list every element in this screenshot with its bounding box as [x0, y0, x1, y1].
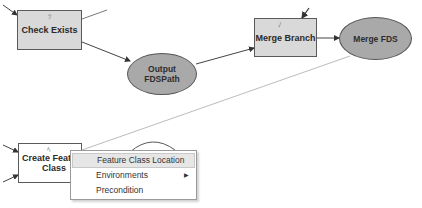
- connector-output-to-merge-branch: [196, 48, 254, 64]
- node-label: Merge Branch: [255, 33, 315, 43]
- node-merge-fds[interactable]: Merge FDS: [339, 17, 412, 60]
- tool-icon: ﾉ: [278, 20, 281, 30]
- connector-into-create-fc-1: [3, 145, 18, 152]
- node-merge-branch[interactable]: ﾉ Merge Branch: [254, 18, 317, 57]
- node-output-fdspath[interactable]: Output FDSPath: [127, 53, 197, 95]
- tool-icon: ﾂ: [48, 12, 51, 22]
- menu-item-label: Precondition: [96, 185, 143, 195]
- tool-icon: ﾍ: [47, 145, 50, 155]
- connector-check-to-output: [82, 42, 130, 61]
- node-label: Check Exists: [21, 25, 77, 35]
- menu-item-environments[interactable]: Environments ▶: [72, 168, 195, 183]
- connector-into-merge-branch-top: [302, 8, 309, 18]
- node-label: Merge FDS: [353, 34, 397, 44]
- node-label-line2: FDSPath: [144, 74, 179, 84]
- node-label-line1: Output: [144, 64, 179, 74]
- connector-precondition: [82, 56, 350, 150]
- connector-into-create-fc-2: [3, 175, 18, 182]
- connector-into-check-exists: [3, 5, 17, 15]
- menu-item-label: Feature Class Location: [97, 155, 184, 165]
- submenu-arrow-icon: ▶: [184, 168, 189, 183]
- menu-item-label: Environments: [96, 170, 148, 180]
- model-canvas[interactable]: ﾂ Check Exists Output FDSPath ﾉ Merge Br…: [0, 0, 422, 208]
- node-check-exists[interactable]: ﾂ Check Exists: [17, 10, 82, 50]
- menu-item-feature-class-location[interactable]: Feature Class Location: [72, 153, 195, 168]
- context-menu: Feature Class Location Environments ▶ Pr…: [70, 150, 197, 200]
- connector-check-exists-out: [82, 10, 107, 19]
- menu-item-precondition[interactable]: Precondition: [72, 183, 195, 198]
